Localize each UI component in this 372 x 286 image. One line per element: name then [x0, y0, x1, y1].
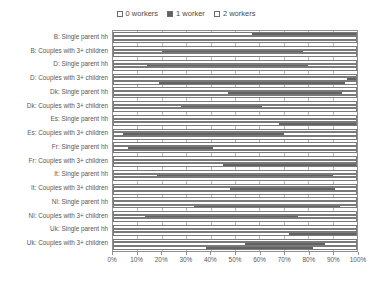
- x-axis-tick: [260, 252, 261, 255]
- bar-group: [113, 210, 357, 224]
- x-axis-tick: [309, 252, 310, 255]
- x-axis-tick-label: 10%: [130, 255, 143, 264]
- x-axis-tick: [284, 252, 285, 255]
- x-axis-tick: [358, 252, 359, 255]
- chart-legend: 0 workers1 worker2 workers: [0, 9, 372, 18]
- y-axis-label: Dk: Single parent hh: [50, 88, 108, 96]
- bar-group: [113, 100, 357, 114]
- y-axis-label: B: Couples with 3+ children: [30, 47, 108, 55]
- bar-segment: [113, 122, 279, 126]
- stacked-bar: [113, 122, 357, 126]
- y-axis-label: Fr: Single parent hh: [52, 143, 108, 151]
- bar-group: [113, 72, 357, 86]
- stacked-bar: [113, 67, 357, 71]
- plot-area: [112, 30, 358, 252]
- bar-segment: [113, 177, 357, 181]
- x-axis-tick-label: 90%: [327, 255, 340, 264]
- bar-segment: [113, 67, 357, 71]
- stacked-bar: [113, 40, 357, 44]
- bar-group: [113, 127, 357, 141]
- legend-swatch-icon: [167, 11, 173, 17]
- y-axis-label: It: Single parent hh: [54, 170, 108, 178]
- y-axis-label: Nl: Single parent hh: [52, 198, 108, 206]
- bar-segment: [113, 108, 357, 112]
- x-axis-tick-label: 70%: [278, 255, 291, 264]
- x-axis-tick-label: 20%: [155, 255, 168, 264]
- x-axis-tick-label: 60%: [253, 255, 266, 264]
- x-axis-tick: [161, 252, 162, 255]
- stacked-bar: [113, 95, 357, 99]
- legend-entry: 1 worker: [167, 9, 205, 18]
- x-axis-tick: [210, 252, 211, 255]
- stacked-bar: [113, 218, 357, 222]
- y-axis-label: Nl: Couples with 3+ children: [29, 212, 108, 220]
- x-axis-labels: 0%10%20%30%40%50%60%70%80%90%100%: [112, 255, 358, 267]
- y-axis-label: Uk: Single parent hh: [50, 225, 108, 233]
- legend-entry: 0 workers: [117, 9, 159, 18]
- y-axis-label: Es: Couples with 3+ children: [27, 129, 108, 137]
- bar-group: [113, 59, 357, 73]
- bar-group: [113, 182, 357, 196]
- bar-group: [113, 224, 357, 238]
- stacked-bar: [113, 53, 357, 57]
- bar-group: [113, 45, 357, 59]
- stacked-bar: [113, 163, 357, 167]
- bar-segment: [223, 163, 357, 167]
- bar-group: [113, 155, 357, 169]
- bar-rows: [113, 31, 357, 251]
- legend-label: 0 workers: [126, 9, 159, 18]
- x-axis-tick-label: 40%: [204, 255, 217, 264]
- x-axis-tick-label: 50%: [229, 255, 242, 264]
- legend-label: 1 worker: [176, 9, 205, 18]
- x-axis-tick: [112, 252, 113, 255]
- bar-group: [113, 169, 357, 183]
- bar-group: [113, 114, 357, 128]
- y-axis-label: It: Couples with 3+ children: [31, 184, 108, 192]
- bar-segment: [113, 136, 357, 140]
- bar-segment: [313, 246, 357, 250]
- bar-segment: [113, 150, 357, 154]
- bar-group: [113, 86, 357, 100]
- y-axis-label: Uk: Couples with 3+ children: [27, 239, 108, 247]
- stacked-bar: [113, 150, 357, 154]
- y-axis-label: Dk: Couples with 3+ children: [27, 102, 108, 110]
- stacked-bar: [113, 108, 357, 112]
- legend-entry: 2 workers: [214, 9, 256, 18]
- x-axis-tick: [235, 252, 236, 255]
- y-axis-label: D: Single parent hh: [53, 60, 108, 68]
- bar-segment: [113, 232, 289, 236]
- bar-group: [113, 141, 357, 155]
- bar-segment: [113, 163, 223, 167]
- bar-segment: [113, 40, 357, 44]
- x-axis-tick: [186, 252, 187, 255]
- bar-segment: [113, 246, 206, 250]
- bar-group: [113, 31, 357, 45]
- bar-segment: [113, 81, 159, 85]
- bar-segment: [289, 232, 357, 236]
- legend-swatch-icon: [214, 11, 220, 17]
- x-axis-tick: [137, 252, 138, 255]
- y-axis-label: Fr: Couples with 3+ children: [29, 157, 108, 165]
- bar-segment: [113, 191, 357, 195]
- bar-segment: [113, 53, 357, 57]
- y-axis-labels: B: Single parent hhB: Couples with 3+ ch…: [0, 30, 110, 252]
- stacked-bar: [113, 246, 357, 250]
- stacked-bar: [113, 232, 357, 236]
- x-axis-tick: [333, 252, 334, 255]
- legend-swatch-icon: [117, 11, 123, 17]
- x-axis-tick-label: 0%: [107, 255, 116, 264]
- y-axis-label: Es: Single parent hh: [50, 115, 108, 123]
- stacked-bar: [113, 177, 357, 181]
- stacked-bar-chart: 0 workers1 worker2 workers B: Single par…: [0, 0, 372, 286]
- bar-segment: [113, 95, 357, 99]
- y-axis-label: B: Single parent hh: [54, 33, 108, 41]
- stacked-bar: [113, 205, 357, 209]
- bar-group: [113, 196, 357, 210]
- legend-label: 2 workers: [223, 9, 256, 18]
- x-axis-tick-label: 100%: [350, 255, 366, 264]
- stacked-bar: [113, 191, 357, 195]
- bar-segment: [159, 81, 344, 85]
- stacked-bar: [113, 136, 357, 140]
- bar-segment: [194, 205, 340, 209]
- bar-group: [113, 237, 357, 251]
